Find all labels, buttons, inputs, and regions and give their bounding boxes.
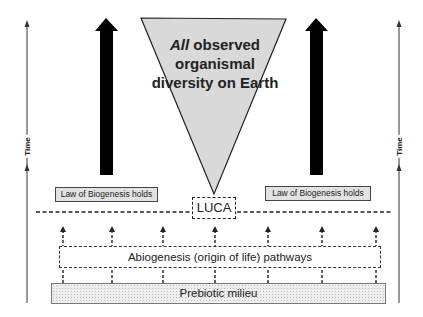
law-of-biogenesis-right: Law of Biogenesis holds bbox=[265, 186, 371, 201]
luca-box: LUCA bbox=[192, 197, 236, 219]
prebiotic-milieu-box: Prebiotic milieu bbox=[51, 283, 386, 304]
abiogenesis-pathways-box: Abiogenesis (origin of life) pathways bbox=[59, 246, 381, 268]
time-axis-right bbox=[397, 20, 402, 303]
time-axis-left bbox=[25, 20, 30, 303]
pathway-arrowheads bbox=[60, 226, 379, 232]
evolution-arrow-right bbox=[305, 18, 328, 175]
triangle-label-italic: All bbox=[170, 36, 189, 53]
evolution-arrow-left bbox=[95, 18, 118, 175]
diagram-canvas: All observed organismal diversity on Ear… bbox=[0, 0, 423, 317]
time-label-left: Time bbox=[23, 135, 32, 158]
law-of-biogenesis-left: Law of Biogenesis holds bbox=[55, 187, 158, 202]
time-label-right: Time bbox=[395, 135, 404, 158]
diversity-triangle-label: All observed organismal diversity on Ear… bbox=[150, 35, 280, 92]
